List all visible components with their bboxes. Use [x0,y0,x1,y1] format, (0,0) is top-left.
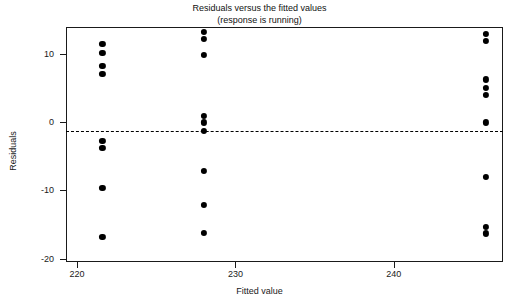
y-tick-label: -20 [2,254,54,264]
y-tick-mark [60,54,66,55]
y-tick-mark [60,190,66,191]
x-tick-label: 240 [374,269,414,279]
chart-title: Residuals versus the fitted values (resp… [0,3,519,26]
zero-reference-line [66,131,503,132]
plot-area [66,27,503,262]
residuals-scatter-chart: Residuals versus the fitted values (resp… [0,0,519,307]
chart-subtitle: (response is running) [0,15,519,27]
x-axis-title: Fitted value [0,286,519,296]
chart-title-line1: Residuals versus the fitted values [192,3,326,13]
y-tick-mark [60,122,66,123]
y-tick-label: 10 [2,49,54,59]
y-tick-label: 0 [2,117,54,127]
x-tick-label: 230 [215,269,255,279]
y-tick-label: -10 [2,185,54,195]
y-tick-mark [60,259,66,260]
x-tick-mark [394,262,395,268]
x-tick-label: 220 [57,269,97,279]
x-tick-mark [77,262,78,268]
x-tick-mark [235,262,236,268]
